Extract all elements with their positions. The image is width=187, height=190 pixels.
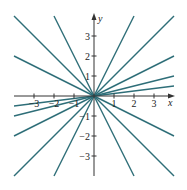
x-tick-label: −2 — [49, 98, 60, 109]
y-tick-label: −1 — [79, 111, 90, 122]
x-tick-label: 3 — [152, 98, 157, 109]
y-axis-label: y — [97, 13, 103, 24]
line-family-plot: −3−2−1123321−1−2−3 x y — [0, 0, 187, 190]
x-axis-label: x — [167, 97, 173, 108]
x-tick-label: −3 — [29, 98, 40, 109]
x-tick-label: 2 — [132, 98, 137, 109]
y-axis-arrow-icon — [92, 13, 97, 20]
y-tick-label: 1 — [85, 71, 90, 82]
x-tick-label: −1 — [69, 98, 80, 109]
y-tick-label: −2 — [79, 131, 90, 142]
y-tick-label: 2 — [85, 51, 90, 62]
y-tick-label: 3 — [85, 31, 90, 42]
y-tick-label: −3 — [79, 151, 90, 162]
x-tick-label: 1 — [112, 98, 117, 109]
